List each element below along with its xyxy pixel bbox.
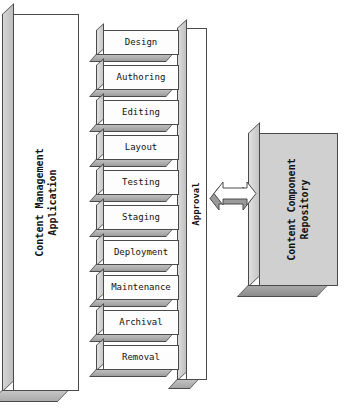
cms-architecture-diagram: Content Management Application DesignAut…: [0, 0, 351, 416]
stage-label: Maintenance: [103, 275, 179, 300]
stage-label: Design: [103, 30, 179, 55]
pipeline-stage-box: Deployment: [103, 240, 179, 265]
double-headed-arrow-icon: [209, 176, 257, 222]
pipeline-stage-box: Layout: [103, 135, 179, 160]
pipeline-stage-box: Maintenance: [103, 275, 179, 300]
cma-bottom-face: [0, 390, 69, 402]
approval-bottom-face: [168, 379, 199, 389]
pipeline-stage-box: Archival: [103, 310, 179, 335]
pipeline-stage-box: Removal: [103, 345, 179, 370]
stage-bottom-face: [89, 369, 173, 377]
stage-label: Editing: [103, 100, 179, 125]
pipeline-stage-box: Design: [103, 30, 179, 55]
stage-label: Archival: [103, 310, 179, 335]
stage-label: Layout: [103, 135, 179, 160]
repository-bottom-face: [237, 285, 328, 297]
stage-label: Testing: [103, 170, 179, 195]
stage-label: Deployment: [103, 240, 179, 265]
pipeline-stage-box: Editing: [103, 100, 179, 125]
stage-label: Removal: [103, 345, 179, 370]
stage-label: Authoring: [103, 65, 179, 90]
pipeline-stage-box: Testing: [103, 170, 179, 195]
content-component-repository: Content Component Repository: [259, 133, 338, 286]
pipeline-stage-box: Authoring: [103, 65, 179, 90]
approval-column: Approval: [186, 28, 207, 380]
